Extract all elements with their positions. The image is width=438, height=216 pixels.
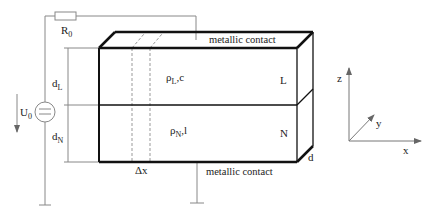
y-axis-arrow-icon (349, 115, 374, 141)
coordinate-axes (349, 68, 421, 141)
resistor-icon (55, 12, 76, 20)
layer-N-label: N (280, 127, 288, 139)
circuit (17, 12, 204, 205)
x-axis-label: x (403, 144, 409, 156)
layered-conductor-diagram: R0 U0 dL dN metallic contact metallic co… (0, 0, 438, 216)
layer-L-params: ρL,c (166, 71, 184, 86)
thickness-L-label: dL (52, 77, 63, 92)
z-axis-label: z (337, 72, 342, 84)
thickness-N-label: dN (52, 130, 64, 145)
conductor-box (99, 32, 313, 162)
top-contact-label: metallic contact (209, 34, 276, 45)
resistor-label: R0 (61, 24, 72, 39)
voltage-source-icon (35, 102, 55, 122)
bottom-contact-label: metallic contact (206, 166, 273, 177)
slice-delta-x (132, 34, 162, 162)
layer-L-label: L (280, 74, 287, 86)
delta-x-label: Δx (135, 164, 148, 176)
depth-label: d (308, 151, 314, 163)
voltage-label: U0 (20, 106, 32, 121)
layer-N-params: ρN,l (170, 124, 187, 139)
y-axis-label: y (376, 117, 382, 129)
